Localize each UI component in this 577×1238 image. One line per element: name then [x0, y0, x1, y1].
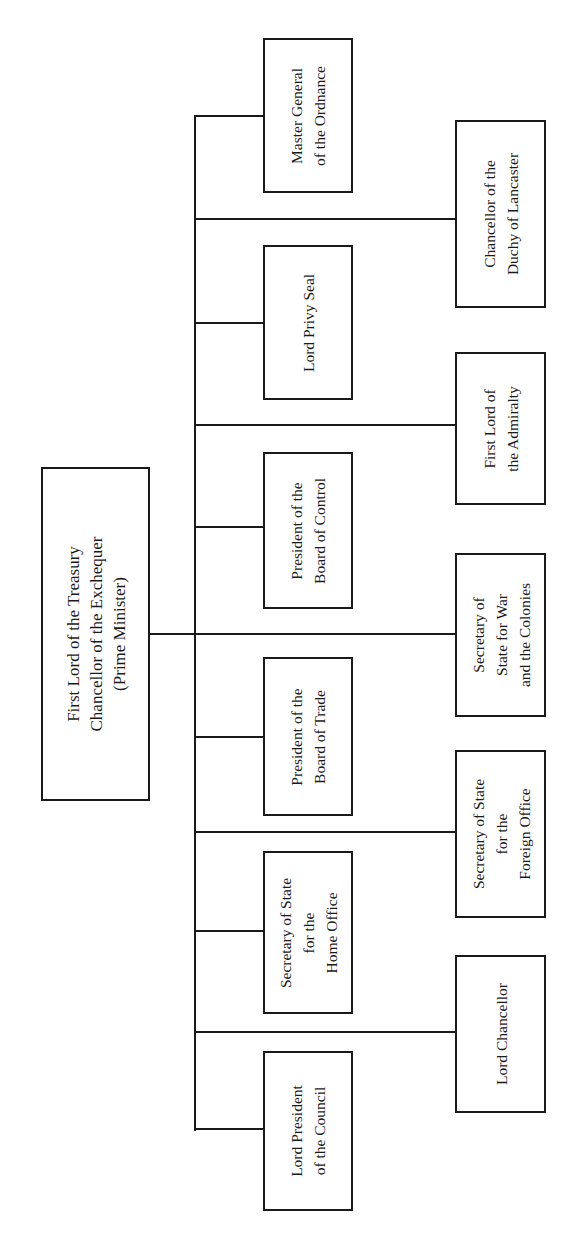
- lord-privy-seal-box: Lord Privy Seal: [263, 245, 353, 400]
- cabinet-org-chart: First Lord of the Treasury Chancellor of…: [0, 0, 577, 1238]
- trunk-line: [194, 115, 196, 1131]
- lord-chancellor-box: Lord Chancellor: [455, 955, 546, 1113]
- branch-line-foreign-office: [194, 831, 456, 833]
- branch-line-home-office: [194, 930, 264, 932]
- secretary-foreign-office-label: Secretary of State for the Foreign Offic…: [466, 779, 535, 889]
- secretary-war-colonies-box: Secretary of State for War and the Colon…: [455, 553, 546, 717]
- lord-privy-seal-label: Lord Privy Seal: [297, 273, 320, 371]
- president-board-control-label: President of the Board of Control: [285, 478, 331, 584]
- first-lord-admiralty-label: First Lord of the Admiralty: [478, 386, 524, 472]
- chancellor-duchy-lancaster-label: Chancellor of the Duchy of Lancaster: [478, 153, 524, 275]
- root-connector-line: [149, 633, 456, 635]
- branch-line-lord-president: [194, 1128, 264, 1130]
- secretary-war-colonies-label: Secretary of State for War and the Colon…: [466, 583, 535, 687]
- lord-chancellor-label: Lord Chancellor: [489, 983, 512, 1085]
- lord-president-council-label: Lord President of the Council: [285, 1085, 331, 1177]
- branch-line-lord-chancellor: [194, 1031, 456, 1033]
- prime-minister-box: First Lord of the Treasury Chancellor of…: [41, 467, 150, 801]
- lord-president-council-box: Lord President of the Council: [263, 1051, 353, 1211]
- secretary-foreign-office-box: Secretary of State for the Foreign Offic…: [455, 750, 546, 918]
- master-general-ordnance-box: Master General of the Ordnance: [263, 38, 353, 193]
- branch-line-board-control: [194, 526, 264, 528]
- first-lord-admiralty-box: First Lord of the Admiralty: [455, 352, 546, 505]
- president-board-control-box: President of the Board of Control: [263, 452, 353, 609]
- chancellor-duchy-lancaster-box: Chancellor of the Duchy of Lancaster: [455, 120, 546, 308]
- branch-line-admiralty: [194, 424, 456, 426]
- branch-line-duchy-lancaster: [194, 218, 456, 220]
- master-general-ordnance-label: Master General of the Ordnance: [285, 66, 331, 166]
- secretary-home-office-box: Secretary of State for the Home Office: [263, 851, 353, 1014]
- secretary-home-office-label: Secretary of State for the Home Office: [274, 877, 343, 987]
- branch-line-privy-seal: [194, 322, 264, 324]
- president-board-trade-label: President of the Board of Trade: [285, 688, 331, 785]
- president-board-trade-box: President of the Board of Trade: [263, 657, 353, 816]
- branch-line-master-general: [194, 115, 264, 117]
- branch-line-board-trade: [194, 736, 264, 738]
- prime-minister-label: First Lord of the Treasury Chancellor of…: [61, 537, 130, 732]
